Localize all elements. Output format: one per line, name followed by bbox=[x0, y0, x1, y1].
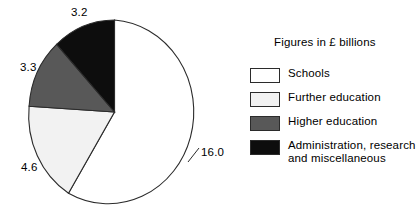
pie-chart-figure: 3.2 3.3 4.6 16.0 Figures in £ billions S… bbox=[0, 0, 420, 220]
legend-label-higher-education: Higher education bbox=[288, 115, 377, 128]
pie-value-label-higher-education: 3.3 bbox=[20, 61, 37, 74]
pie-value-label-further-education: 4.6 bbox=[21, 161, 38, 174]
legend-title: Figures in £ billions bbox=[274, 36, 376, 49]
leader-line-schools bbox=[188, 148, 199, 162]
pie-chart-plot: 3.2 3.3 4.6 bbox=[0, 0, 230, 220]
pie-svg bbox=[0, 0, 230, 220]
legend-swatch-higher-education bbox=[250, 116, 280, 131]
legend-swatch-schools bbox=[250, 68, 280, 83]
pie-value-label-administration: 3.2 bbox=[71, 6, 88, 19]
legend-label-further-education: Further education bbox=[288, 91, 381, 104]
legend-swatch-further-education bbox=[250, 92, 280, 107]
legend-swatch-administration bbox=[250, 140, 280, 155]
legend-label-schools: Schools bbox=[288, 67, 330, 80]
legend-label-administration: Administration, research and miscellaneo… bbox=[288, 139, 416, 165]
pie-value-label-schools: 16.0 bbox=[201, 146, 224, 159]
